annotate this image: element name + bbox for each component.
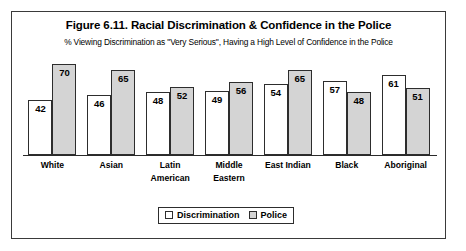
legend-item-discrimination: Discrimination [165,210,240,220]
plot-area: 4270466548524956546557486151 [23,57,435,155]
bar-value-label: 42 [29,103,51,114]
bar-value-label: 54 [265,87,287,98]
bar-discrimination-latin-american: 48 [146,92,170,155]
category-label-middle-eastern: MiddleEastern [200,159,259,184]
bar-value-label: 48 [348,95,370,106]
bar-value-label: 51 [407,91,429,102]
bar-discrimination-black: 57 [323,81,347,155]
bar-group: 6151 [376,57,435,155]
bar-value-label: 52 [171,90,193,101]
legend-label: Police [261,210,288,220]
bar-value-label: 57 [324,84,346,95]
bar-police-asian: 65 [111,70,135,155]
bar-group: 4665 [82,57,141,155]
chart-title: Figure 6.11. Racial Discrimination & Con… [12,19,445,31]
legend-swatch-icon [249,211,257,219]
bar-value-label: 46 [88,98,110,109]
bar-value-label: 70 [53,67,75,78]
bar-police-middle-eastern: 56 [229,82,253,155]
category-label-black: Black [317,159,376,172]
category-label-aboriginal: Aboriginal [376,159,435,172]
legend-item-police: Police [249,210,288,220]
bar-value-label: 56 [230,85,252,96]
bar-police-east-indian: 65 [288,70,312,155]
category-label-asian: Asian [82,159,141,172]
bar-value-label: 65 [112,73,134,84]
bar-group: 5465 [258,57,317,155]
bar-discrimination-aboriginal: 61 [382,75,406,155]
bar-group: 4270 [23,57,82,155]
bar-value-label: 61 [383,78,405,89]
bar-discrimination-asian: 46 [87,95,111,155]
legend-swatch-icon [165,211,173,219]
bar-police-aboriginal: 51 [406,88,430,155]
bar-police-white: 70 [52,64,76,155]
figure-frame: Figure 6.11. Racial Discrimination & Con… [11,11,446,239]
bar-group: 4956 [200,57,259,155]
category-axis-labels: WhiteAsianLatinAmericanMiddleEasternEast… [23,159,435,195]
bar-discrimination-east-indian: 54 [264,84,288,155]
bar-discrimination-middle-eastern: 49 [205,91,229,155]
category-label-east-indian: East Indian [258,159,317,172]
chart-legend: DiscriminationPolice [158,207,294,224]
bar-group: 4852 [141,57,200,155]
x-axis-line [23,155,437,156]
legend-label: Discrimination [177,210,240,220]
category-label-latin-american: LatinAmerican [141,159,200,184]
bar-value-label: 65 [289,73,311,84]
category-label-white: White [23,159,82,172]
bar-police-latin-american: 52 [170,87,194,155]
bar-value-label: 48 [147,95,169,106]
bar-value-label: 49 [206,94,228,105]
chart-subtitle: % Viewing Discrimination as "Very Seriou… [12,37,445,47]
bar-police-black: 48 [347,92,371,155]
bar-discrimination-white: 42 [28,100,52,155]
bar-group: 5748 [317,57,376,155]
